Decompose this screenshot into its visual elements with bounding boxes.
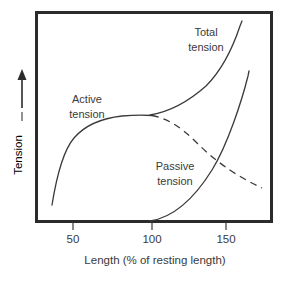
xtick-label-50: 50	[67, 233, 80, 245]
active-tension-label-line2: tension	[69, 108, 104, 120]
y-axis-title: Tension	[12, 135, 24, 175]
xtick-label-100: 100	[142, 233, 161, 245]
total-tension-label-line1: Total	[194, 26, 217, 38]
xtick-label-150: 150	[216, 233, 235, 245]
passive-tension-label-line2: tension	[157, 175, 192, 187]
active-tension-label-line1: Active	[72, 93, 102, 105]
passive-tension-label-line1: Passive	[156, 160, 195, 172]
x-axis-title: Length (% of resting length)	[84, 254, 225, 266]
up-arrow-icon	[18, 69, 27, 80]
total-tension-label-line2: tension	[188, 41, 223, 53]
length-tension-chart: 50 100 150 Length (% of resting length) …	[0, 0, 293, 282]
chart-figure: 50 100 150 Length (% of resting length) …	[0, 0, 293, 282]
